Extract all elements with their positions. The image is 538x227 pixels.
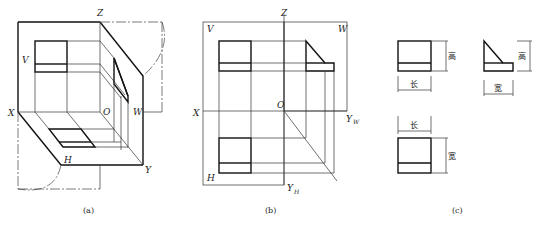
label-y-w-subscript: W <box>353 118 360 125</box>
top-view <box>398 138 431 173</box>
front-view <box>398 41 431 71</box>
label-y-h-subscript: H <box>293 188 300 195</box>
label-x: X <box>7 108 15 118</box>
caption-c: (c) <box>452 206 463 215</box>
top-view <box>219 138 251 173</box>
h-plane-left-edge <box>18 112 61 165</box>
rotation-arc <box>18 165 61 190</box>
caption-b: (b) <box>265 206 276 215</box>
label-h: H <box>206 173 215 183</box>
side-width-label: 宽 <box>494 83 502 93</box>
45-degree-line <box>284 111 337 181</box>
w-plane-frame <box>284 22 347 111</box>
front-length-label: 长 <box>410 79 418 89</box>
label-o: O <box>103 107 111 117</box>
front-view <box>219 41 251 71</box>
side-view <box>484 41 513 71</box>
label-y: Y <box>145 165 152 175</box>
side-view <box>306 41 334 71</box>
label-v: V <box>207 24 215 34</box>
panel-b-unfolded-projection: Z V W X O Y W H Y H (b) <box>192 8 360 215</box>
label-y-w: Y W <box>346 114 360 125</box>
label-z: Z <box>280 8 288 18</box>
vh-plane-frame <box>203 22 284 185</box>
label-y-w-main: Y <box>346 114 353 124</box>
label-w: W <box>133 107 143 117</box>
front-view-on-v <box>35 41 67 72</box>
side-height-label: 高 <box>518 51 526 61</box>
y-axis <box>100 112 143 165</box>
label-y-h: Y H <box>287 183 300 195</box>
three-view-projection-diagram: Z V X O W H Y (a) <box>0 0 538 227</box>
front-height-label: 高 <box>448 51 456 61</box>
proj-line <box>67 112 81 129</box>
proj-line <box>100 72 121 98</box>
proj-line <box>35 112 49 129</box>
label-y-h-main: Y <box>287 183 294 193</box>
panel-a-isometric-projection: Z V X O W H Y (a) <box>7 8 165 215</box>
proj-line <box>100 41 114 58</box>
label-x: X <box>192 108 200 118</box>
label-w: W <box>338 24 348 34</box>
label-v: V <box>22 55 30 65</box>
label-h: H <box>63 155 72 165</box>
caption-a: (a) <box>83 206 94 215</box>
label-z: Z <box>96 8 104 18</box>
label-o: O <box>277 100 285 110</box>
rotation-arc <box>143 22 165 76</box>
top-length-label: 长 <box>410 120 418 130</box>
top-view-on-h <box>49 129 95 147</box>
top-width-label: 宽 <box>448 151 456 161</box>
panel-c-three-views: 高 长 高 宽 长 宽 (c) <box>398 41 532 215</box>
